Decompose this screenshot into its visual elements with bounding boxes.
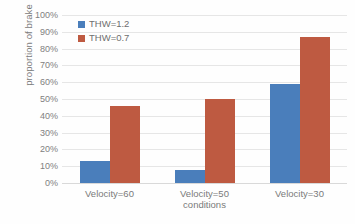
y-axis-tick-label: 0%: [28, 179, 58, 188]
bar-chart: proportion of brake 100%90%80%70%60%50%4…: [0, 0, 355, 224]
y-axis-tick-label: 80%: [28, 44, 58, 53]
bar[interactable]: [80, 161, 110, 183]
legend: THW=1.2THW=0.7: [78, 19, 129, 43]
legend-swatch-icon: [78, 21, 85, 28]
bar[interactable]: [300, 37, 330, 183]
gridline: [62, 183, 347, 184]
legend-label: THW=1.2: [89, 19, 129, 29]
legend-item[interactable]: THW=0.7: [78, 33, 129, 43]
y-axis-tick-label: 10%: [28, 162, 58, 171]
bar[interactable]: [110, 106, 140, 183]
legend-swatch-icon: [78, 35, 85, 42]
y-axis-tick-label: 100%: [28, 11, 58, 20]
y-axis-tick-label: 50%: [28, 95, 58, 104]
y-axis-tick-label: 60%: [28, 78, 58, 87]
bar[interactable]: [270, 84, 300, 183]
y-axis-tick-label: 40%: [28, 111, 58, 120]
y-axis-tick-label: 30%: [28, 128, 58, 137]
legend-label: THW=0.7: [89, 33, 129, 43]
bar[interactable]: [205, 99, 235, 183]
y-axis-tick-labels: 100%90%80%70%60%50%40%30%20%10%0%: [28, 15, 58, 183]
bar-group: [252, 15, 347, 183]
y-axis-tick-label: 70%: [28, 61, 58, 70]
y-axis-tick-label: 20%: [28, 145, 58, 154]
y-axis-tick-label: 90%: [28, 27, 58, 36]
bar-group: [157, 15, 252, 183]
bar[interactable]: [175, 170, 205, 183]
x-axis-title: conditions: [62, 199, 347, 210]
legend-item[interactable]: THW=1.2: [78, 19, 129, 29]
